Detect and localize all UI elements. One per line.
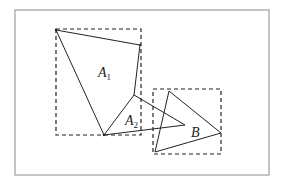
- polygon-a2: [104, 95, 185, 135]
- vertex-point: [139, 44, 141, 46]
- vertex-point: [55, 29, 57, 31]
- label-b: B: [191, 125, 200, 140]
- vertex-point: [103, 134, 105, 136]
- polygon-b: [155, 91, 221, 152]
- diagram-canvas: A1 A2 B: [0, 0, 283, 183]
- label-a1: A1: [97, 65, 111, 82]
- b-bounding-box: [153, 89, 221, 154]
- outer-frame: [15, 10, 269, 175]
- label-a2: A2: [124, 113, 138, 130]
